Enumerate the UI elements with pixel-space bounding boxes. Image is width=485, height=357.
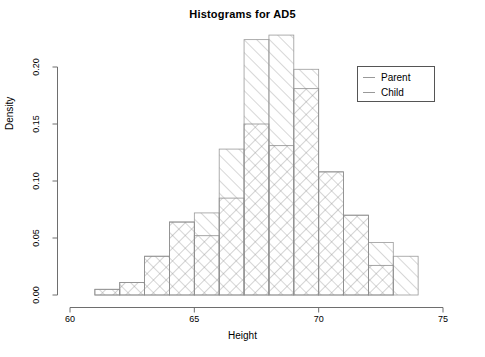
legend-label-child: Child [381, 88, 404, 98]
legend-item-child: Child [358, 85, 434, 100]
y-tick-label: 0.15 [29, 109, 43, 139]
y-tick-label: 0.10 [29, 166, 43, 196]
x-axis-title: Height [0, 330, 485, 341]
y-axis-title: Density [4, 97, 15, 130]
bar-parent [393, 256, 418, 295]
legend: Parent Child [357, 66, 435, 102]
bar-child [169, 222, 194, 295]
x-tick-label: 60 [55, 314, 85, 324]
y-tick-label: 0.00 [29, 280, 43, 310]
y-tick-label: 0.05 [29, 223, 43, 253]
bar-child [120, 282, 145, 295]
bar-child [344, 215, 369, 295]
legend-item-parent: Parent [358, 70, 434, 85]
histogram-plot: Histograms for AD5 Density Height 0.000.… [0, 0, 485, 357]
x-tick-label: 70 [304, 314, 334, 324]
bar-child [244, 124, 269, 295]
legend-label-parent: Parent [381, 73, 410, 83]
bar-child [294, 89, 319, 295]
bar-child [269, 146, 294, 295]
bar-child [368, 265, 393, 295]
bar-child [145, 256, 170, 295]
x-tick-label: 75 [428, 314, 458, 324]
bar-child [319, 172, 344, 295]
y-tick-label: 0.20 [29, 52, 43, 82]
legend-swatch-parent-icon [363, 77, 375, 78]
x-tick-label: 65 [179, 314, 209, 324]
bar-child [219, 198, 244, 295]
chart-canvas [0, 0, 485, 357]
bar-child [95, 289, 120, 295]
legend-swatch-child-icon [363, 92, 375, 93]
bar-child [194, 236, 219, 295]
